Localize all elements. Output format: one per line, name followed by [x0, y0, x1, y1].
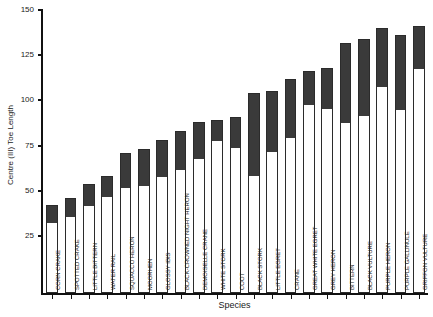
x-axis-line: [41, 293, 428, 295]
x-tick-mark: [107, 295, 108, 299]
bar-max-segment: [66, 199, 75, 217]
x-tick-mark: [382, 295, 383, 299]
y-tick-label: 25: [8, 232, 34, 240]
bar-max-segment: [267, 92, 276, 152]
x-axis-category-label: GLOSSY IBIS: [165, 252, 171, 290]
bar-max-segment: [341, 44, 350, 124]
x-tick-mark: [217, 295, 218, 299]
bar-max-segment: [359, 40, 368, 116]
y-tick-label: 150: [8, 6, 34, 14]
bar-max-segment: [231, 118, 240, 149]
x-tick-mark: [346, 295, 347, 299]
x-axis-category-label: GREY HERON: [330, 250, 336, 290]
x-axis-category-label: GREAT WHITE EGRET: [312, 227, 318, 290]
y-tick-mark: [38, 9, 43, 11]
x-axis-category-label: MOORHEN: [147, 259, 153, 290]
bar-max-segment: [157, 141, 166, 177]
x-axis-category-label: CRANE: [294, 269, 300, 290]
y-tick-mark: [38, 99, 43, 101]
bar-max-segment: [396, 36, 405, 110]
bar[interactable]: [340, 43, 351, 293]
x-axis-category-label: LITTLE BITTERN: [92, 243, 98, 290]
x-tick-mark: [364, 295, 365, 299]
y-tick-mark: [38, 190, 43, 192]
x-axis-category-label: GRIFFON VULTURE: [422, 234, 428, 290]
x-tick-mark: [291, 295, 292, 299]
x-axis-category-label: WHITE STORK: [220, 248, 226, 290]
x-axis-category-label: BLACK-CROWNED NIGHT HERON: [184, 193, 190, 290]
bar-max-segment: [102, 177, 111, 197]
x-axis-category-label: SQUACCO HERON: [129, 236, 135, 290]
x-axis-category-label: BITTERN: [349, 264, 355, 290]
y-tick-mark: [38, 145, 43, 147]
bar-max-segment: [47, 206, 56, 222]
x-axis-category-label: BLACK STORK: [257, 248, 263, 290]
bar-max-segment: [84, 185, 93, 207]
x-tick-mark: [236, 295, 237, 299]
x-tick-mark: [71, 295, 72, 299]
x-tick-mark: [181, 295, 182, 299]
x-tick-mark: [52, 295, 53, 299]
x-axis-category-label: WATER RAIL: [110, 254, 116, 290]
bar-max-segment: [212, 121, 221, 141]
bar-max-segment: [194, 123, 203, 159]
bar-max-segment: [414, 27, 423, 69]
x-tick-mark: [89, 295, 90, 299]
y-tick-label: 50: [8, 187, 34, 195]
x-axis-category-label: SPOTTED CRAKE: [74, 239, 80, 290]
x-tick-mark: [419, 295, 420, 299]
x-tick-mark: [272, 295, 273, 299]
x-tick-mark: [199, 295, 200, 299]
x-axis-category-label: PURPLE HERON: [385, 243, 391, 290]
y-tick-mark: [38, 54, 43, 56]
x-axis-category-label: DEMOISELLE CRANE: [202, 229, 208, 290]
x-tick-mark: [126, 295, 127, 299]
bar-max-segment: [377, 29, 386, 87]
x-axis-category-label: CORN CRAKE: [55, 250, 61, 290]
bar-max-segment: [176, 132, 185, 170]
x-axis-category-label: LITTLE EGRET: [275, 248, 281, 290]
x-axis-category-label: BLACK VULTURE: [367, 241, 373, 290]
bar-max-segment: [249, 94, 258, 175]
bar-max-segment: [322, 69, 331, 109]
bar-max-segment: [304, 72, 313, 105]
x-axis-category-label: COOT: [239, 273, 245, 290]
x-axis-category-label: PURPLE GALLINULE: [404, 231, 410, 290]
bar-max-segment: [139, 150, 148, 186]
y-tick-mark: [38, 235, 43, 237]
x-tick-mark: [401, 295, 402, 299]
x-tick-mark: [309, 295, 310, 299]
x-tick-mark: [327, 295, 328, 299]
bar[interactable]: [230, 117, 241, 293]
x-tick-mark: [162, 295, 163, 299]
bar-max-segment: [286, 80, 295, 138]
x-axis-title: Species: [41, 300, 428, 310]
y-tick-label: 125: [8, 51, 34, 59]
y-axis-line: [41, 9, 43, 293]
x-tick-mark: [254, 295, 255, 299]
bar[interactable]: [285, 79, 296, 293]
x-tick-mark: [144, 295, 145, 299]
bar-max-segment: [121, 154, 130, 188]
chart-container: 255075100125150 Centre (III) Toe Length …: [0, 0, 433, 317]
y-tick-label: 100: [8, 96, 34, 104]
y-axis-title: Centre (III) Toe Length: [6, 105, 15, 185]
